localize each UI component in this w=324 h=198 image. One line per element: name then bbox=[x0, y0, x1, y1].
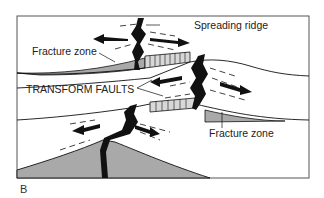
transform-fault-diagram: Spreading ridge Fracture zone TRANSFORM … bbox=[0, 0, 324, 198]
panel-label: B bbox=[20, 183, 27, 195]
label-fracture-zone-top: Fracture zone bbox=[32, 45, 97, 57]
label-spreading-ridge: Spreading ridge bbox=[194, 19, 268, 31]
label-transform-faults: TRANSFORM FAULTS bbox=[26, 83, 134, 95]
label-fracture-zone-bottom: Fracture zone bbox=[209, 127, 274, 139]
